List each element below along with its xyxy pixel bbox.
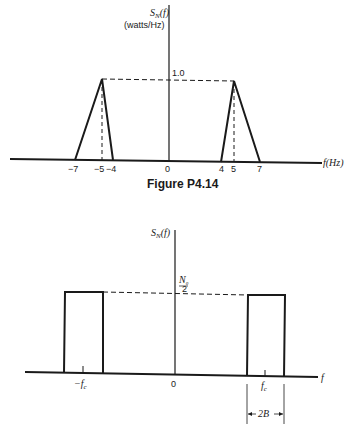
figure-canvas: SN(f) (watts/Hz) 1.0 −7 −5 −4 0 4 5 7 f(… [0, 0, 350, 429]
arrow-right-icon [279, 412, 283, 416]
figure-caption: Figure P4.14 [147, 177, 219, 191]
right-band-rect [247, 295, 285, 377]
left-triangle [75, 79, 113, 160]
tick-neg-fc: −fc [74, 378, 88, 391]
tick-fc: fc [261, 380, 268, 393]
y-axis-label-2: SN(f) [151, 227, 171, 240]
svg-text:2: 2 [182, 284, 187, 294]
arrow-left-icon [248, 412, 252, 416]
tick-zero-2: 0 [171, 379, 176, 389]
bandpass-noise-figure: SN(f) N0 2 −fc 0 fc f 2B [25, 227, 325, 424]
peak-level-label: 1.0 [172, 68, 185, 78]
y-axis-units: (watts/Hz) [124, 20, 165, 30]
tick-zero: 0 [165, 164, 170, 174]
tick-plus5: 5 [231, 164, 236, 174]
x-axis-2 [25, 372, 318, 377]
bandwidth-label: 2B [258, 408, 269, 419]
tick-minus5: −5 [94, 164, 104, 174]
x-axis-label-2: f [321, 372, 325, 383]
peak-dashed-line [102, 79, 234, 81]
tick-minus4: −4 [106, 164, 116, 174]
figure-p4-14: SN(f) (watts/Hz) 1.0 −7 −5 −4 0 4 5 7 f(… [10, 5, 344, 191]
x-axis [10, 159, 322, 163]
right-triangle [221, 81, 260, 162]
left-band-rect [64, 292, 103, 373]
noise-level-label: N0 2 [178, 274, 189, 294]
y-axis-label: SN(f) [150, 7, 170, 20]
tick-plus7: 7 [257, 164, 262, 174]
x-axis-label: f(Hz) [323, 157, 344, 169]
tick-plus4: 4 [219, 164, 224, 174]
tick-minus7: −7 [68, 164, 78, 174]
